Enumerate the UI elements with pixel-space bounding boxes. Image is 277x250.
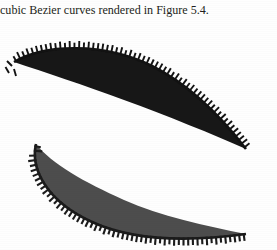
scanned-page: cubic Bezier curves rendered in Figure 5… [0,0,277,250]
figure-illustration [0,18,277,250]
leading-edge-tick [7,61,12,66]
bezier-curves-svg [0,18,277,250]
upper-bezier-crescent [6,41,250,149]
upper-leading-edge-marks [6,61,17,76]
lower-bezier-crescent [28,144,246,246]
leading-edge-tick [14,69,16,76]
upper-crescent-body [14,48,246,149]
lower-crescent-body [35,144,246,239]
figure-caption-text: cubic Bezier curves rendered in Figure 5… [0,0,277,20]
leading-edge-tick [6,67,10,73]
